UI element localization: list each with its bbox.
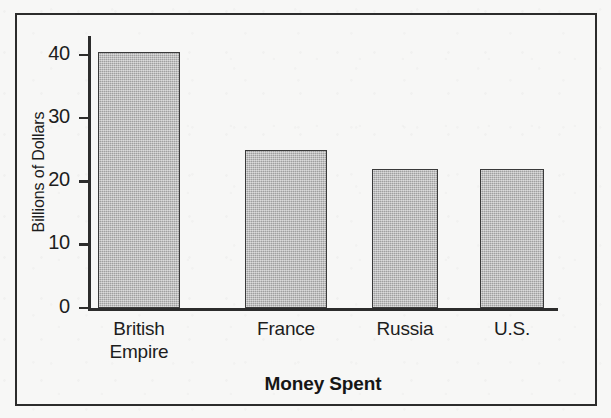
y-tick-label-40: 40 (48, 42, 70, 65)
y-tick-label-20: 20 (48, 168, 70, 191)
chart-figure: Billions of Dollars 0 10 20 30 40 Britis… (0, 0, 611, 418)
y-tick-label-10: 10 (48, 232, 70, 255)
y-tick-10: 10 (79, 243, 90, 246)
x-tick-label-us: U.S. (480, 317, 544, 340)
bar-british-empire[interactable] (98, 52, 180, 308)
y-axis-line (88, 36, 91, 308)
y-tick-0: 0 (79, 307, 90, 310)
bar-russia[interactable] (372, 169, 438, 308)
plot-area: 0 10 20 30 40 British Empire France Russ… (88, 36, 558, 308)
bar-france[interactable] (245, 150, 327, 308)
y-tick-30: 30 (79, 117, 90, 120)
bar-us[interactable] (480, 169, 544, 308)
x-axis-line (88, 308, 558, 311)
y-axis-title: Billions of Dollars (28, 36, 50, 308)
x-tick-label-france: France (245, 317, 327, 340)
y-tick-40: 40 (79, 54, 90, 57)
y-tick-label-30: 30 (48, 105, 70, 128)
y-tick-label-0: 0 (59, 295, 70, 318)
x-axis-title: Money Spent (88, 373, 558, 395)
x-tick-label-british-empire: British Empire (98, 317, 180, 363)
x-tick-label-russia: Russia (372, 317, 438, 340)
y-tick-20: 20 (79, 180, 90, 183)
